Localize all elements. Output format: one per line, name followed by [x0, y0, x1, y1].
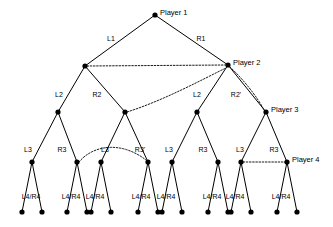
tree-node-level0[interactable]: [152, 12, 157, 17]
tree-node-level4[interactable]: [248, 209, 253, 214]
tree-edge: [162, 162, 172, 212]
tree-node-level3[interactable]: [284, 159, 289, 164]
tree-nodes: [19, 12, 299, 214]
tree-edge: [208, 162, 218, 212]
tree-node-level4[interactable]: [108, 209, 113, 214]
tree-edge: [241, 112, 266, 162]
tree-edge: [148, 162, 158, 212]
tree-node-level2[interactable]: [55, 109, 60, 114]
tree-node-level1[interactable]: [225, 62, 230, 67]
tree-edge: [32, 112, 58, 162]
tree-node-level4[interactable]: [19, 209, 24, 214]
tree-edge: [231, 162, 241, 212]
tree-edge: [172, 112, 197, 162]
tree-node-level3[interactable]: [74, 159, 79, 164]
tree-edge: [197, 65, 228, 112]
tree-node-level4[interactable]: [179, 209, 184, 214]
tree-edge: [218, 162, 228, 212]
tree-node-level4[interactable]: [274, 209, 279, 214]
tree-edge: [138, 162, 148, 212]
tree-edge: [155, 15, 228, 65]
tree-node-level2[interactable]: [122, 109, 127, 114]
tree-node-level3[interactable]: [29, 159, 34, 164]
tree-node-level4[interactable]: [205, 209, 210, 214]
tree-node-level4[interactable]: [159, 209, 164, 214]
tree-node-level3[interactable]: [238, 159, 243, 164]
tree-node-level3[interactable]: [98, 159, 103, 164]
tree-node-level1[interactable]: [82, 63, 87, 68]
tree-edge: [58, 66, 85, 112]
link-level3-left-dotted: [79, 147, 146, 162]
tree-node-level4[interactable]: [39, 209, 44, 214]
tree-node-level3[interactable]: [169, 159, 174, 164]
tree-edges: [22, 15, 297, 212]
tree-diagram-figure: L1R1L2R2L2R2'L3R3L3R3'L3R3L3R3L4/R4L4/R4…: [0, 0, 333, 227]
tree-edge: [91, 162, 101, 212]
tree-node-level2[interactable]: [194, 109, 199, 114]
tree-edge: [58, 112, 77, 162]
tree-dotted-links: [79, 65, 285, 162]
tree-edge: [266, 112, 287, 162]
tree-node-level3[interactable]: [215, 159, 220, 164]
tree-node-level4[interactable]: [228, 209, 233, 214]
tree-edge: [67, 162, 77, 212]
tree-node-level4[interactable]: [135, 209, 140, 214]
tree-node-level3[interactable]: [145, 159, 150, 164]
tree-node-level2[interactable]: [263, 109, 268, 114]
tree-node-level4[interactable]: [294, 209, 299, 214]
tree-edge: [32, 162, 42, 212]
tree-edge: [287, 162, 297, 212]
tree-edge: [101, 112, 125, 162]
link-level1-dotted: [87, 65, 226, 66]
tree-edge: [241, 162, 251, 212]
tree-edge: [22, 162, 32, 212]
tree-edge: [77, 162, 87, 212]
tree-node-level4[interactable]: [64, 209, 69, 214]
tree-edge: [101, 162, 111, 212]
tree-edge: [125, 112, 148, 162]
tree-edge: [85, 15, 155, 66]
tree-edge: [228, 65, 266, 112]
tree-edge: [277, 162, 287, 212]
tree-node-level4[interactable]: [88, 209, 93, 214]
tree-edge: [197, 112, 218, 162]
tree-graphics: [0, 0, 333, 227]
tree-edge: [172, 162, 182, 212]
tree-edge: [85, 66, 125, 112]
